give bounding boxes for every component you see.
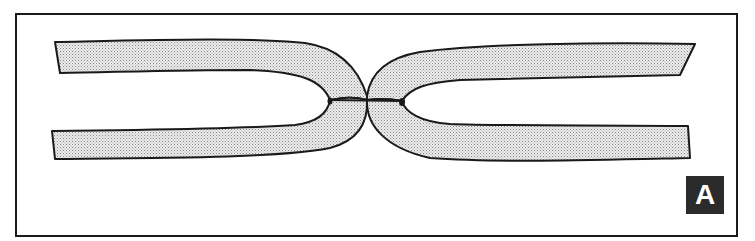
centromere-right: [399, 98, 405, 106]
figure-label-text: A: [695, 181, 715, 209]
centromere-left: [328, 98, 333, 105]
chromosome-left-upper-arm: [55, 39, 367, 100]
chromosome-left-lower-arm: [52, 98, 367, 159]
figure-label-badge: A: [686, 176, 724, 214]
chiasma-line: [330, 100, 402, 101]
chromosome-right-upper-arm: [367, 43, 695, 101]
chromosome-right-lower-arm: [367, 99, 690, 161]
chromosome-diagram: [0, 0, 755, 241]
